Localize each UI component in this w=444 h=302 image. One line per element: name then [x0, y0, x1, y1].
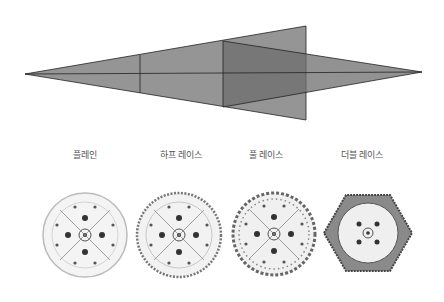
plates-row — [0, 0, 444, 302]
plate-full-lace — [233, 193, 315, 275]
plate-double-lace — [324, 195, 412, 271]
plate-half-lace — [137, 193, 221, 277]
plate-plain — [43, 193, 127, 277]
